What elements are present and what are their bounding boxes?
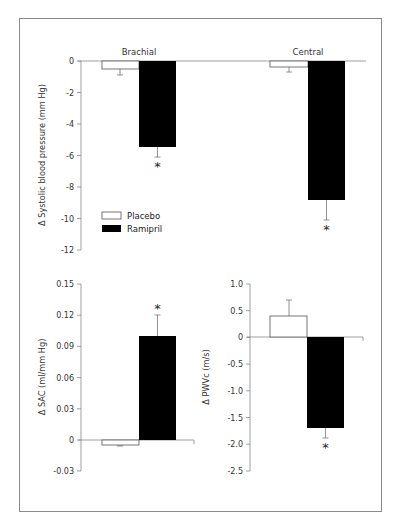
bp-y-axis-title: Δ Systolic blood pressure (mm Hg) xyxy=(37,84,47,226)
legend-label-ramipril: Ramipril xyxy=(127,224,162,234)
bp-tick-label: -10 xyxy=(61,215,74,224)
pwv-y-axis-title: Δ PWVc (m/s) xyxy=(201,349,211,404)
bp-tick-label: 0 xyxy=(69,57,74,66)
group-label-brachial: Brachial xyxy=(122,47,157,57)
pwv-tick-label: 0 xyxy=(238,333,243,342)
central-ramipril-bar xyxy=(308,61,345,200)
pwv-tick-label: -2.0 xyxy=(227,440,243,449)
significance-star: * xyxy=(322,440,329,455)
pwv-ramipril-bar xyxy=(307,337,344,428)
pwv-placebo-bar xyxy=(270,316,307,337)
sac-tick-label: 0.06 xyxy=(56,374,74,383)
sac-tick-label: 0.09 xyxy=(56,342,74,351)
sac-tick-label: 0.12 xyxy=(56,311,74,320)
sac-y-axis-title: Δ SAC (ml/mm Hg) xyxy=(37,339,47,416)
bp-tick-label: -8 xyxy=(66,183,74,192)
sac-tick-label: 0.15 xyxy=(56,280,74,289)
pwv-tick-label: -0.5 xyxy=(227,360,243,369)
significance-star: * xyxy=(154,301,161,316)
pwv-tick-label: -2.5 xyxy=(227,467,243,476)
pwv-tick-label: -1.0 xyxy=(227,387,243,396)
central-placebo-bar xyxy=(270,61,308,67)
bp-ticks xyxy=(77,61,81,250)
bp-chart: 0 -2 -4 -6 -8 -10 -12 Δ Systolic blood p… xyxy=(37,47,366,255)
sac-tick-label: 0 xyxy=(69,436,74,445)
pwv-tick-label: 1.0 xyxy=(230,280,243,289)
sac-tick-label: -0.03 xyxy=(53,467,74,476)
pwv-chart: 1.0 0.5 0 -0.5 -1.0 -1.5 -2.0 -2.5 Δ PWV… xyxy=(201,280,363,476)
brachial-placebo-bar xyxy=(102,61,139,69)
sac-tick-label: 0.03 xyxy=(56,405,74,414)
bp-tick-label: -4 xyxy=(66,120,74,129)
sac-chart: 0.15 0.12 0.09 0.06 0.03 0 -0.03 Δ SAC (… xyxy=(37,280,194,476)
pwv-ticks xyxy=(246,284,250,471)
significance-star: * xyxy=(323,222,330,237)
pwv-tick-label: 0.5 xyxy=(230,307,243,316)
sac-ramipril-bar xyxy=(139,336,176,440)
bp-tick-label: -6 xyxy=(66,152,74,161)
legend-label-placebo: Placebo xyxy=(127,211,160,221)
bp-tick-label: -12 xyxy=(61,246,74,255)
legend: Placebo Ramipril xyxy=(102,211,162,234)
significance-star: * xyxy=(154,159,161,174)
legend-swatch-placebo xyxy=(102,212,121,219)
legend-swatch-ramipril xyxy=(102,225,121,232)
figure-svg: 0 -2 -4 -6 -8 -10 -12 Δ Systolic blood p… xyxy=(0,0,399,521)
sac-placebo-bar xyxy=(102,440,139,445)
pwv-tick-label: -1.5 xyxy=(227,414,243,423)
sac-ticks xyxy=(77,284,81,471)
brachial-ramipril-bar xyxy=(139,61,176,147)
bp-tick-label: -2 xyxy=(66,89,74,98)
group-label-central: Central xyxy=(293,47,324,57)
